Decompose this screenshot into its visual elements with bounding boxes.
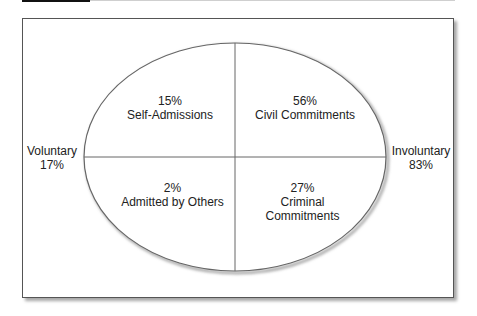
quadrant-label: Civil Commitments [240, 108, 370, 122]
quadrant-label: Self-Admissions [110, 108, 230, 122]
quadrant-percent: 15% [110, 94, 230, 108]
side-label-voluntary: Voluntary 17% [22, 144, 82, 172]
quadrant-civil-commitments: 56% Civil Commitments [240, 94, 370, 122]
quadrant-admitted-by-others: 2% Admitted by Others [110, 181, 235, 209]
side-percent: 83% [388, 158, 454, 172]
quadrant-percent: 2% [110, 181, 235, 195]
quadrant-self-admissions: 15% Self-Admissions [110, 94, 230, 122]
side-label: Involuntary [388, 144, 454, 158]
quadrant-label-line1: Criminal [240, 195, 365, 209]
side-label-involuntary: Involuntary 83% [388, 144, 454, 172]
side-percent: 17% [22, 158, 82, 172]
quadrant-percent: 27% [240, 181, 365, 195]
quadrant-label-line2: Commitments [240, 209, 365, 223]
side-label: Voluntary [22, 144, 82, 158]
quadrant-percent: 56% [240, 94, 370, 108]
quadrant-criminal-commitments: 27% Criminal Commitments [240, 181, 365, 223]
quadrant-label: Admitted by Others [110, 195, 235, 209]
